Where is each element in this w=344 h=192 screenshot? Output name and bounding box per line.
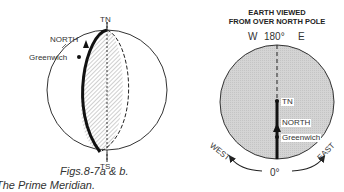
top-west-label: W <box>248 32 257 42</box>
diagram-canvas <box>0 0 344 192</box>
right-globe <box>220 45 334 171</box>
west-arrow <box>231 158 262 171</box>
title-line-2: FROM OVER NORTH POLE <box>215 18 339 27</box>
bottom-0-label: 0° <box>270 168 280 178</box>
caption-line-1: Figs.8-7a & b. <box>60 165 128 178</box>
right-greenwich-label: Greenwich <box>281 134 321 142</box>
left-greenwich-label: Greenwich <box>29 54 67 62</box>
top-180-label: 180° <box>264 32 285 42</box>
right-figure-title: EARTH VIEWED FROM OVER NORTH POLE <box>215 9 339 26</box>
right-tn-label: TN <box>281 98 294 106</box>
left-north-label: NORTH <box>50 36 78 44</box>
right-north-label: NORTH <box>281 119 311 127</box>
east-arrow <box>292 158 323 171</box>
caption-line-2: The Prime Meridian. <box>0 179 95 192</box>
top-east-label: E <box>298 32 305 42</box>
left-tn-label: TN <box>100 16 111 24</box>
greenwich-point <box>77 55 81 59</box>
